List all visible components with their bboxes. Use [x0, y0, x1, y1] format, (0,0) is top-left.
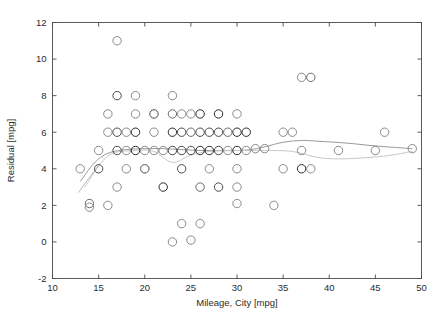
scatter-point	[177, 146, 185, 154]
scatter-point	[196, 128, 204, 136]
scatter-point	[113, 128, 121, 136]
y-tick-label: 10	[36, 53, 47, 64]
scatter-point	[380, 128, 388, 136]
y-axis-label: Residual [mpg]	[5, 119, 16, 182]
scatter-point	[122, 165, 130, 173]
y-tick-label: 0	[41, 236, 46, 247]
scatter-point	[104, 201, 112, 209]
scatter-point	[297, 73, 305, 81]
scatter-point	[177, 110, 185, 118]
scatter-point	[177, 165, 185, 173]
scatter-point	[196, 110, 204, 118]
scatter-point	[214, 110, 222, 118]
scatter-point	[233, 165, 241, 173]
scatter-point	[131, 91, 139, 99]
y-axis-tick-labels: -2024681012	[36, 17, 47, 284]
scatter-point	[159, 183, 167, 191]
scatter-point	[260, 144, 268, 152]
scatter-point	[205, 128, 213, 136]
y-tick-label: 2	[41, 200, 46, 211]
scatter-point	[233, 128, 241, 136]
scatter-point	[196, 183, 204, 191]
scatter-point	[307, 165, 315, 173]
scatter-point	[94, 146, 102, 154]
scatter-point	[76, 165, 84, 173]
y-tick-label: 4	[41, 163, 46, 174]
x-tick-label: 15	[93, 282, 104, 293]
fit-curves	[78, 140, 412, 192]
scatter-point	[242, 128, 250, 136]
scatter-point	[187, 236, 195, 244]
scatter-point	[150, 128, 158, 136]
scatter-point	[168, 238, 176, 246]
scatter-point	[233, 110, 241, 118]
y-tick-label: 6	[41, 127, 46, 138]
scatter-point	[233, 199, 241, 207]
scatter-plot-svg: 101520253035404550 -2024681012 Mileage, …	[0, 0, 444, 318]
x-tick-label: 30	[232, 282, 243, 293]
y-tick-label: 12	[36, 17, 47, 28]
scatter-point	[279, 128, 287, 136]
scatter-point	[150, 110, 158, 118]
scatter-point	[141, 165, 149, 173]
scatter-point	[113, 37, 121, 45]
scatter-point	[168, 146, 176, 154]
x-tick-label: 35	[278, 282, 289, 293]
scatter-points	[76, 37, 416, 247]
x-tick-label: 45	[370, 282, 381, 293]
scatter-point	[104, 110, 112, 118]
scatter-point	[113, 91, 121, 99]
x-tick-label: 20	[139, 282, 150, 293]
scatter-point	[224, 128, 232, 136]
scatter-point	[177, 128, 185, 136]
scatter-point	[168, 110, 176, 118]
scatter-point	[159, 146, 167, 154]
scatter-point	[131, 110, 139, 118]
x-tick-label: 25	[186, 282, 197, 293]
scatter-point	[270, 201, 278, 209]
scatter-point	[214, 128, 222, 136]
x-tick-label: 10	[47, 282, 58, 293]
x-axis-tick-labels: 101520253035404550	[47, 282, 427, 293]
scatter-point	[196, 219, 204, 227]
scatter-point	[279, 165, 287, 173]
scatter-point	[122, 128, 130, 136]
scatter-point	[168, 128, 176, 136]
x-tick-label: 50	[416, 282, 427, 293]
y-tick-label: 8	[41, 90, 46, 101]
scatter-point	[214, 183, 222, 191]
scatter-point	[177, 219, 185, 227]
x-tick-label: 40	[324, 282, 335, 293]
scatter-point	[288, 128, 296, 136]
scatter-point	[334, 146, 342, 154]
scatter-point	[113, 183, 121, 191]
x-axis-label: Mileage, City [mpg]	[196, 297, 277, 308]
scatter-point	[104, 128, 112, 136]
scatter-point	[187, 110, 195, 118]
scatter-point	[307, 73, 315, 81]
scatter-point	[187, 128, 195, 136]
scatter-point	[205, 165, 213, 173]
chart-figure: 101520253035404550 -2024681012 Mileage, …	[0, 0, 444, 318]
scatter-point	[168, 91, 176, 99]
fit-curve-line	[85, 150, 412, 187]
y-tick-label: -2	[38, 273, 46, 284]
scatter-point	[233, 183, 241, 191]
scatter-point	[371, 146, 379, 154]
scatter-point	[131, 128, 139, 136]
scatter-point	[297, 165, 305, 173]
